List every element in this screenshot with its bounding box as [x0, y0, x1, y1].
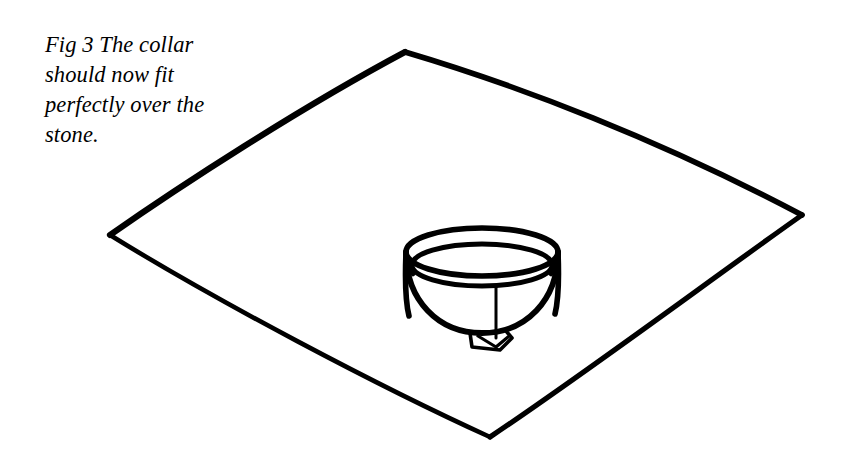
figure-page: Fig 3 The collar should now fit perfectl… — [0, 0, 848, 460]
figure-caption: Fig 3 The collar should now fit perfectl… — [45, 30, 295, 150]
